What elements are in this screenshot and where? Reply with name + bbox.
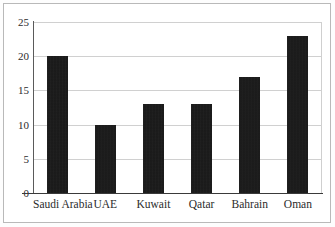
x-label-kuwait: Kuwait — [129, 196, 177, 212]
x-label-bahrain: Bahrain — [226, 196, 274, 212]
bar-chart-figure: 0510152025 Saudi ArabiaUAEKuwaitQatarBah… — [0, 0, 335, 227]
plot-area — [33, 22, 322, 193]
y-axis-tick-labels: 0510152025 — [4, 22, 29, 193]
y-axis-line — [33, 21, 34, 194]
gridline-15 — [33, 90, 322, 91]
y-tick-label-25: 25 — [7, 17, 29, 28]
y-tick-label-5: 5 — [7, 153, 29, 164]
y-tick-label-20: 20 — [7, 51, 29, 62]
y-tick-label-10: 10 — [7, 119, 29, 130]
bar-saudi-arabia[interactable] — [47, 56, 68, 193]
y-tick-label-15: 15 — [7, 85, 29, 96]
bar-qatar[interactable] — [191, 104, 212, 193]
plot-border-right — [321, 22, 322, 193]
gridline-5 — [33, 159, 322, 160]
bar-uae[interactable] — [95, 125, 116, 193]
gridline-10 — [33, 125, 322, 126]
bar-kuwait[interactable] — [143, 104, 164, 193]
x-label-qatar: Qatar — [178, 196, 226, 212]
x-axis-category-labels: Saudi ArabiaUAEKuwaitQatarBahrainOman — [33, 196, 322, 216]
bar-oman[interactable] — [287, 36, 308, 193]
gridline-25 — [33, 22, 322, 23]
x-label-oman: Oman — [274, 196, 322, 212]
gridline-20 — [33, 56, 322, 57]
x-axis-line — [22, 193, 323, 194]
x-label-uae: UAE — [81, 196, 129, 212]
x-label-saudi-arabia: Saudi Arabia — [33, 196, 81, 212]
bar-bahrain[interactable] — [239, 77, 260, 193]
